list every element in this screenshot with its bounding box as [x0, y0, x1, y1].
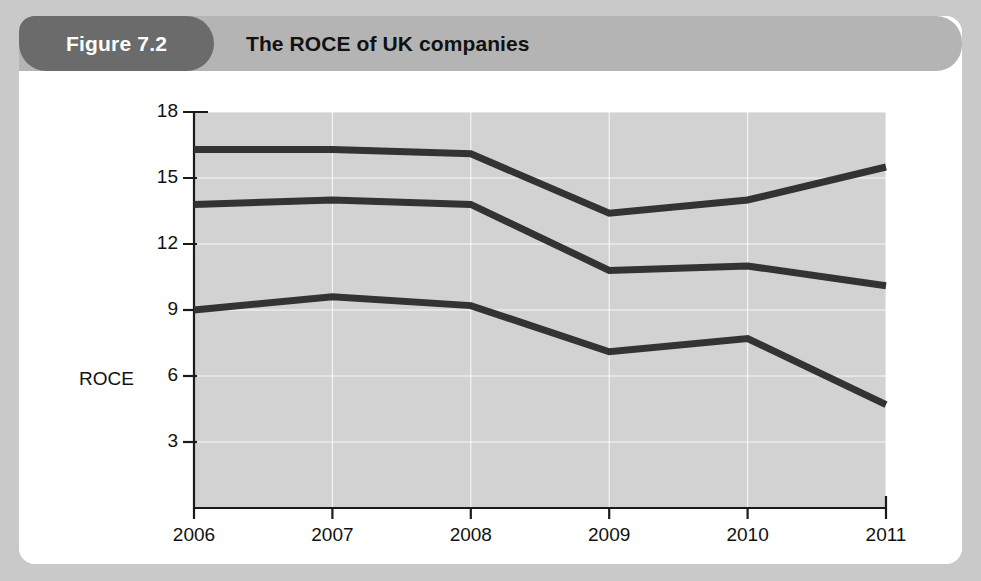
- y-axis-tick-label: 6: [138, 364, 178, 386]
- x-axis-tick-label: 2006: [149, 524, 239, 546]
- y-axis-tick-label: 12: [138, 232, 178, 254]
- series-line: [194, 200, 886, 286]
- figure-number-badge: Figure 7.2: [19, 16, 214, 71]
- chart-area: ROCE 369121518 200620072008200920102011 …: [19, 71, 962, 564]
- plot-svg: [194, 112, 886, 508]
- figure-title: The ROCE of UK companies: [246, 16, 530, 71]
- series-line: [194, 297, 886, 405]
- x-axis-tick-label: 2009: [564, 524, 654, 546]
- plot-area: [194, 112, 886, 508]
- x-axis-tick-label: 2008: [426, 524, 516, 546]
- figure-outer-frame: Figure 7.2 The ROCE of UK companies ROCE…: [0, 0, 981, 581]
- y-axis-tick-label: 3: [138, 430, 178, 452]
- figure-number-label: Figure 7.2: [66, 32, 167, 56]
- x-axis-tick-label: 2010: [703, 524, 793, 546]
- x-axis-tick-label: 2007: [287, 524, 377, 546]
- y-axis-tick-label: 9: [138, 298, 178, 320]
- y-axis-tick-label: 18: [138, 100, 178, 122]
- x-axis-tick-label: 2011: [841, 524, 931, 546]
- y-axis-tick-label: 15: [138, 166, 178, 188]
